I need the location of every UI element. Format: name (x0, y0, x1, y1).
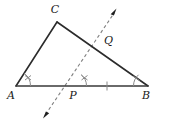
ray-arrowhead-upper (111, 9, 117, 16)
dashed-ray-line (46, 13, 115, 115)
label-B: B (141, 89, 150, 102)
label-C: C (51, 3, 60, 16)
dashed-transversal-ray (43, 9, 117, 119)
side-AC (16, 22, 57, 86)
label-A: A (6, 89, 15, 102)
label-P: P (68, 89, 77, 102)
geometry-canvas: C Q A P B (0, 0, 171, 127)
angle-mark-B (133, 75, 140, 86)
label-Q: Q (104, 34, 113, 47)
geometry-figure: C Q A P B (0, 0, 171, 127)
angle-mark-P (81, 75, 88, 87)
ray-arrowhead-lower (43, 112, 49, 119)
angle-mark-A (24, 74, 31, 87)
